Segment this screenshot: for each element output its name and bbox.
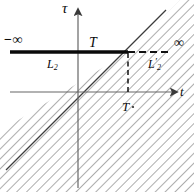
segment-label-L2-base: L <box>47 57 54 71</box>
segment-label-L2-prime-sub: 2 <box>157 63 161 72</box>
tau-axis-value-T: T <box>89 36 97 50</box>
segment-label-L2-prime-base: L <box>148 57 155 71</box>
t-axis-tick-dot <box>132 106 134 108</box>
negative-infinity-label: −∞ <box>4 33 23 47</box>
segment-label-L2: L2 <box>47 58 58 72</box>
tau-axis-label: τ <box>62 1 67 16</box>
positive-infinity-label: ∞ <box>174 36 184 50</box>
figure-region-diagram: τ t −∞ ∞ T T L2 L′2 <box>0 0 194 192</box>
segment-label-L2-prime: L′2 <box>148 57 161 72</box>
segment-label-L2-sub: 2 <box>54 63 58 72</box>
hatched-region <box>0 0 194 192</box>
diagram-canvas <box>0 0 194 192</box>
t-axis-label: t <box>180 85 184 98</box>
t-axis-value-T: T <box>122 100 129 113</box>
